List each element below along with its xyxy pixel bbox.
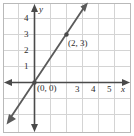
y-axis (31, 4, 38, 132)
y-axis-arrow-bottom (31, 124, 38, 132)
x-tick-label-4: 4 (91, 85, 96, 94)
x-tick-label-3: 3 (75, 85, 80, 94)
point-2-3-marker (64, 32, 68, 36)
x-axis-arrow-left (4, 79, 12, 86)
y-axis-arrow-top (31, 4, 38, 12)
x-tick-label-5: 5 (107, 85, 112, 94)
y-axis-label: y (39, 5, 43, 14)
point-2-3-label: (2, 3) (68, 39, 88, 48)
y-tick-label-4: 4 (24, 14, 29, 23)
x-axis-label: x (121, 85, 125, 94)
y-tick-label-3: 3 (24, 30, 29, 39)
coordinate-plane-figure: 4 3 2 1 3 4 5 x y (0, 0) (2, 3) (0, 0, 134, 136)
y-tick-label-1: 1 (24, 62, 29, 71)
graph-canvas (0, 0, 134, 136)
y-tick-label-2: 2 (24, 46, 29, 55)
origin-point-label: (0, 0) (37, 84, 57, 93)
grid-lines-vertical (19, 3, 115, 133)
